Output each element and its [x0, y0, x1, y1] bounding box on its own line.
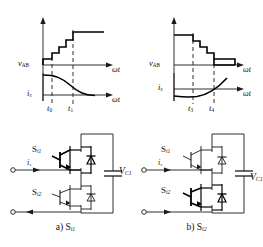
figure-root: vAB ωt is ωt t0 t1 Si1 Si2 is VC1 a) Si1 — [0, 0, 263, 247]
voltage-x-axis-label-a: ωt — [112, 66, 120, 74]
caption-a: a) Si1 — [0, 222, 131, 232]
current-axis-label-b: is — [158, 83, 162, 92]
switch-label-bottom-b: Si2 — [161, 186, 170, 196]
igbt-top-gate-lead — [183, 156, 191, 160]
igbt-top-collector-lead — [191, 150, 201, 155]
switch-label-top-a: Si1 — [32, 145, 41, 155]
caption-b: b) Si2 — [131, 222, 262, 232]
igbt-bottom-collector-lead — [60, 189, 70, 193]
voltage-y-axis-arrow — [40, 17, 45, 24]
capacitor-label-b: VC1 — [250, 173, 263, 183]
voltage-staircase-tail — [214, 59, 235, 65]
igbt-bottom-gate-lead — [183, 193, 191, 197]
igbt-bottom-a — [52, 185, 96, 210]
output-terminal-top — [11, 168, 16, 173]
igbt-top-collector-lead — [60, 150, 70, 155]
panel-b: vAB ωt is ωt t3 t4 Si1 Si2 is VC1 b) Si2 — [131, 0, 262, 247]
current-axis-label-a: is — [27, 89, 31, 98]
current-label-b: is — [158, 159, 162, 168]
current-rising-curve — [174, 78, 227, 97]
switch-label-top-b: Si1 — [161, 145, 170, 155]
panel-a: vAB ωt is ωt t0 t1 Si1 Si2 is VC1 a) Si1 — [0, 0, 131, 247]
output-terminal-bottom — [142, 210, 147, 215]
igbt-bottom-collector-lead — [191, 188, 201, 192]
time-label-t4: t4 — [209, 104, 214, 113]
igbt-bottom-b — [183, 184, 227, 211]
voltage-axis-label-a: vAB — [18, 59, 29, 68]
current-falling-curve — [43, 75, 95, 96]
time-label-t3: t3 — [188, 104, 193, 113]
output-terminal-top — [142, 168, 147, 173]
current-arrow-bottom — [26, 210, 33, 215]
igbt-bottom-gate-lead — [52, 194, 60, 197]
voltage-staircase-waveform — [174, 35, 235, 65]
current-arrow-bottom — [164, 210, 171, 215]
current-x-axis-label-b: ωt — [243, 90, 251, 98]
output-terminal-bottom — [11, 210, 16, 215]
switch-label-bottom-a: Si2 — [32, 188, 41, 198]
current-x-axis-label-a: ωt — [112, 96, 120, 104]
time-label-t0: t0 — [47, 104, 52, 113]
voltage-y-axis-arrow — [171, 17, 176, 24]
current-arrow-top — [164, 168, 171, 173]
igbt-top-gate-lead — [52, 156, 60, 160]
voltage-x-axis-label-b: ωt — [243, 66, 251, 74]
voltage-axis-label-b: vAB — [149, 59, 160, 68]
current-arrow-top — [33, 168, 40, 173]
panel-b-graphics — [131, 0, 262, 220]
time-label-t1: t1 — [68, 104, 73, 113]
capacitor-label-a: VC1 — [119, 167, 132, 177]
panel-a-graphics — [0, 0, 131, 220]
current-label-a: is — [27, 159, 31, 168]
